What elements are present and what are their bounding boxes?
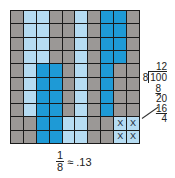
grid-cell xyxy=(50,104,62,116)
grid-cell xyxy=(50,51,62,63)
grid-cell xyxy=(24,117,36,129)
grid-cell xyxy=(75,51,87,63)
grid-cell xyxy=(50,64,62,76)
grid-cell xyxy=(101,24,113,36)
grid-cell xyxy=(114,64,126,76)
grid-cell xyxy=(75,78,87,90)
grid-cell xyxy=(88,38,100,50)
grid-cell xyxy=(11,91,23,103)
grid-cell xyxy=(88,11,100,23)
grid-cell xyxy=(88,78,100,90)
grid-cell xyxy=(88,24,100,36)
grid-cell xyxy=(63,24,75,36)
grid-cell xyxy=(101,131,113,143)
grid-cell xyxy=(37,131,49,143)
grid-cell xyxy=(37,64,49,76)
grid-cell xyxy=(11,24,23,36)
grid-cell xyxy=(101,91,113,103)
grid-cell xyxy=(114,104,126,116)
grid-cell xyxy=(63,64,75,76)
grid-cell xyxy=(114,51,126,63)
grid-cell xyxy=(88,51,100,63)
grid-cell xyxy=(37,11,49,23)
grid-cell xyxy=(11,64,23,76)
remainder-2: 4 xyxy=(161,114,167,124)
grid-cell xyxy=(75,104,87,116)
grid-cell xyxy=(63,11,75,23)
grid-cell xyxy=(50,91,62,103)
grid-cell xyxy=(88,131,100,143)
grid-cell xyxy=(11,117,23,129)
grid-cell xyxy=(75,117,87,129)
grid-cell xyxy=(114,11,126,23)
grid-cell xyxy=(75,64,87,76)
grid-cell xyxy=(101,117,113,129)
grid-cell-marked: X xyxy=(114,117,126,129)
grid-cell xyxy=(63,131,75,143)
grid-cell xyxy=(37,91,49,103)
fraction-caption: 1 8 ≈ .13 xyxy=(56,150,92,173)
grid-cell xyxy=(50,24,62,36)
grid-cell xyxy=(63,51,75,63)
grid-cell xyxy=(114,24,126,36)
grid-cell xyxy=(75,24,87,36)
grid-cell xyxy=(37,51,49,63)
grid-cell xyxy=(63,38,75,50)
grid-cell-marked: X xyxy=(127,131,139,143)
grid-cell xyxy=(127,64,139,76)
grid-cell xyxy=(101,104,113,116)
grid-cell-marked: X xyxy=(114,131,126,143)
grid-cell xyxy=(101,38,113,50)
grid-cell xyxy=(50,131,62,143)
grid-cell xyxy=(63,104,75,116)
grid-cell xyxy=(24,131,36,143)
grid-cell xyxy=(37,104,49,116)
grid-cell xyxy=(88,117,100,129)
grid-cell xyxy=(127,51,139,63)
grid-cell xyxy=(75,91,87,103)
dividend: 100 xyxy=(150,72,167,83)
grid-cell xyxy=(63,91,75,103)
grid-cell xyxy=(50,78,62,90)
grid-cell xyxy=(127,91,139,103)
grid-cell xyxy=(75,131,87,143)
grid-cell xyxy=(101,11,113,23)
grid-cell xyxy=(114,91,126,103)
grid-cell xyxy=(24,104,36,116)
grid-cell xyxy=(101,78,113,90)
grid-cell xyxy=(127,78,139,90)
grid-cell xyxy=(101,51,113,63)
grid-cell xyxy=(88,91,100,103)
grid-cell-marked: X xyxy=(127,117,139,129)
grid-cell xyxy=(127,38,139,50)
grid-cell xyxy=(11,51,23,63)
grid-cell xyxy=(50,38,62,50)
grid-cell xyxy=(24,38,36,50)
grid-cell xyxy=(11,11,23,23)
fraction: 1 8 xyxy=(56,150,64,173)
grid-cell xyxy=(63,117,75,129)
grid-cell xyxy=(11,131,23,143)
grid-cell xyxy=(37,78,49,90)
grid-cell xyxy=(11,38,23,50)
grid-cell xyxy=(24,24,36,36)
grid-cell xyxy=(127,11,139,23)
grid-cell xyxy=(11,104,23,116)
grid-cell xyxy=(88,104,100,116)
grid-cell xyxy=(24,91,36,103)
hundred-grid: XXXX xyxy=(10,10,140,144)
grid-cell xyxy=(24,11,36,23)
grid-cell xyxy=(50,11,62,23)
grid-cell xyxy=(63,78,75,90)
grid-cell xyxy=(11,78,23,90)
grid-cell xyxy=(24,78,36,90)
denominator: 8 xyxy=(57,162,63,173)
grid-cell xyxy=(101,64,113,76)
grid-cell xyxy=(127,24,139,36)
grid-cell xyxy=(24,64,36,76)
grid-cell xyxy=(127,104,139,116)
approx-value: ≈ .13 xyxy=(67,156,91,168)
division-expression: 8100 xyxy=(143,73,167,83)
grid-cell xyxy=(75,38,87,50)
grid-cell xyxy=(37,24,49,36)
